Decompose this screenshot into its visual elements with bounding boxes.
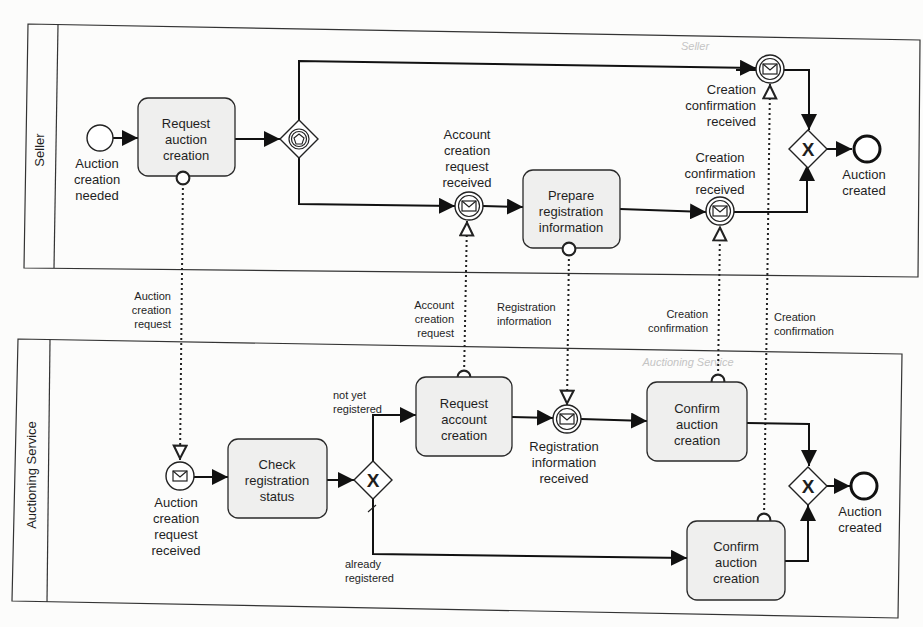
svg-text:Requestauctioncreation: Requestauctioncreation: [162, 116, 211, 163]
task-prepare-registration-information[interactable]: Prepareregistrationinformation: [523, 170, 620, 248]
event-creation-confirmation-received-mid[interactable]: [706, 197, 734, 225]
task-request-auction-creation[interactable]: Requestauctioncreation: [138, 98, 235, 176]
svg-text:Requestaccountcreation: Requestaccountcreation: [440, 396, 489, 443]
flow-label-already-registered: alreadyregistered: [345, 558, 394, 584]
end-event-auction-created-service[interactable]: [851, 473, 877, 499]
task-confirm-auction-creation-bottom[interactable]: Confirmauctioncreation: [687, 521, 785, 600]
task-request-account-creation[interactable]: Requestaccountcreation: [416, 377, 512, 456]
event-creation-confirmation-received-top[interactable]: [756, 55, 784, 83]
exclusive-gateway-service-join[interactable]: X: [789, 467, 827, 505]
svg-text:Prepareregistrationinformation: Prepareregistrationinformation: [539, 188, 603, 235]
exclusive-gateway-seller-join[interactable]: X: [789, 130, 827, 168]
label-creation-confirmation-received-top: Creationconfirmationreceived: [685, 82, 756, 129]
start-event-auction-creation-request-received[interactable]: [166, 462, 194, 490]
exclusive-gateway-registration[interactable]: X: [354, 461, 392, 499]
msg-label-confirmation-1: Creationconfirmation: [648, 308, 708, 334]
pool-label-seller: Seller: [32, 133, 47, 167]
pool-watermark-service: Auctioning Service: [641, 356, 733, 368]
msg-label-auction-request: Auctioncreationrequest: [132, 290, 171, 330]
pool-label-service: Auctioning Service: [24, 421, 39, 529]
label-auction-creation-needed: Auctioncreationneeded: [74, 156, 120, 203]
start-event-auction-creation-needed[interactable]: [87, 125, 113, 151]
msg-label-confirmation-2: Creationconfirmation: [774, 311, 834, 337]
pool-watermark-seller: Seller: [681, 40, 710, 52]
svg-text:Confirmauctioncreation: Confirmauctioncreation: [713, 539, 759, 586]
event-registration-information-received[interactable]: [553, 405, 581, 433]
task-check-registration-status[interactable]: Checkregistrationstatus: [228, 439, 327, 518]
msg-label-registration-info: Registrationinformation: [497, 301, 556, 327]
label-registration-information-received: Registrationinformationreceived: [529, 439, 598, 486]
label-account-creation-request-received: Accountcreationrequestreceived: [442, 127, 491, 190]
label-auction-creation-request-received: Auctioncreationrequestreceived: [151, 495, 200, 558]
svg-text:Confirmauctioncreation: Confirmauctioncreation: [674, 401, 720, 448]
x-icon: X: [802, 476, 815, 497]
event-based-gateway[interactable]: [280, 120, 318, 158]
bpmn-diagram: Seller Seller Auctioning Service Auction…: [0, 0, 923, 627]
end-event-auction-created-seller[interactable]: [854, 136, 880, 162]
x-icon: X: [802, 139, 815, 160]
x-icon: X: [367, 470, 380, 491]
msg-label-account-request: Accountcreationrequest: [414, 299, 454, 339]
flow-label-not-yet-registered: not yetregistered: [333, 389, 382, 415]
label-creation-confirmation-received-mid: Creationconfirmationreceived: [685, 150, 756, 197]
label-auction-created-seller: Auctioncreated: [842, 167, 885, 198]
event-account-creation-request-received[interactable]: [455, 192, 483, 220]
label-auction-created-service: Auctioncreated: [838, 504, 881, 535]
task-confirm-auction-creation-top[interactable]: Confirmauctioncreation: [647, 382, 747, 461]
